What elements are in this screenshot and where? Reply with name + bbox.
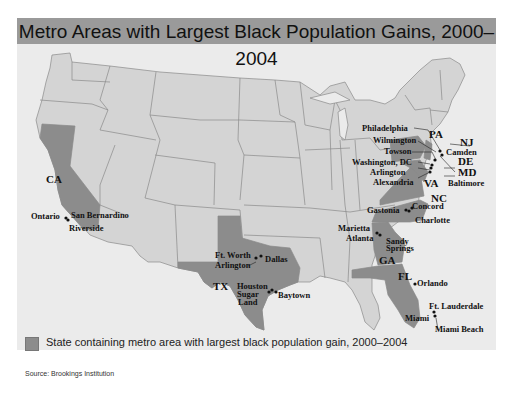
label-san-bernardino: San Bernardino xyxy=(71,210,129,220)
label-ca: CA xyxy=(46,173,62,185)
label-baytown: Baytown xyxy=(278,290,310,300)
label-washington-dc: Washington, DC xyxy=(352,157,412,167)
label-md: MD xyxy=(458,166,476,178)
label-orlando: Orlando xyxy=(417,278,448,288)
source-note: Source: Brookings Institution xyxy=(25,370,114,377)
label-concord: Concord xyxy=(412,201,444,211)
label-springs: Springs xyxy=(386,243,415,253)
label-land: Land xyxy=(238,297,258,307)
label-arlington-tx: Arlington xyxy=(215,260,251,270)
label-baltimore: Baltimore xyxy=(448,178,484,188)
label-dallas: Dallas xyxy=(265,254,288,264)
label-ga: GA xyxy=(379,254,396,266)
label-ft-worth: Ft. Worth xyxy=(215,250,251,260)
label-va: VA xyxy=(424,177,439,189)
legend-swatch xyxy=(25,337,39,351)
label-pa: PA xyxy=(429,128,443,140)
label-ontario: Ontario xyxy=(31,211,60,221)
label-atlanta: Atlanta xyxy=(346,233,374,243)
label-fl: FL xyxy=(398,270,412,282)
legend-label: State containing metro area with largest… xyxy=(46,336,407,348)
label-tx: TX xyxy=(213,280,228,292)
label-philadelphia: Philadelphia xyxy=(362,123,409,133)
label-towson: Towson xyxy=(384,146,412,156)
label-charlotte: Charlotte xyxy=(415,215,450,225)
label-ft-lauderdale: Ft. Lauderdale xyxy=(429,301,484,311)
label-miami-beach: Miami Beach xyxy=(435,324,484,334)
label-gastonia: Gastonia xyxy=(367,205,400,215)
label-alexandria: Alexandria xyxy=(373,177,414,187)
label-wilmington: Wilmington xyxy=(373,135,417,145)
label-arlington-va: Arlington xyxy=(370,167,406,177)
label-marietta: Marietta xyxy=(338,223,371,233)
label-camden: Camden xyxy=(446,147,477,157)
label-miami: Miami xyxy=(405,313,430,323)
label-riverside: Riverside xyxy=(69,223,104,233)
